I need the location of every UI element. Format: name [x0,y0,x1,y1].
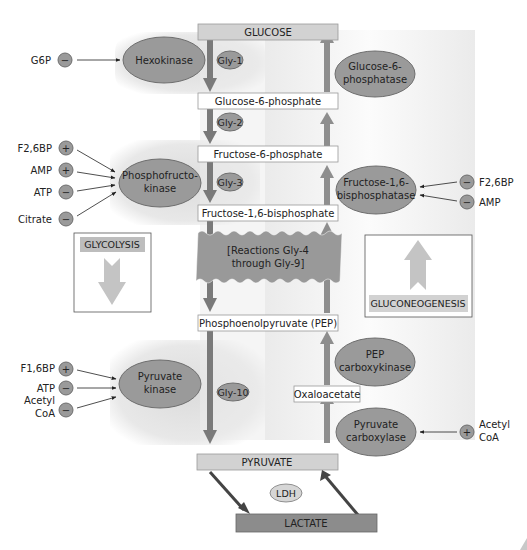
svg-text:Gly-3: Gly-3 [218,177,243,188]
step-gly2: Gly-2 [217,113,243,131]
regulator-pfk-amp: AMP + [31,163,116,178]
svg-text:CoA: CoA [479,432,499,443]
regulator-pk-f16bp: F1,6BP + [20,362,116,379]
svg-text:kinase: kinase [144,384,176,395]
svg-text:−: − [463,177,471,188]
svg-text:Fructose-1,6-bisphosphate: Fructose-1,6-bisphosphate [202,208,335,219]
svg-text:F2,6BP: F2,6BP [479,177,514,188]
svg-text:AMP: AMP [31,165,53,176]
metabolite-g6p: Glucose-6-phosphate [198,93,338,109]
svg-text:+: + [62,165,70,176]
svg-text:Pyruvate: Pyruvate [354,419,399,430]
enzyme-glucose-6-phosphatase: Glucose-6- phosphatase [335,51,415,97]
svg-text:Hexokinase: Hexokinase [135,55,193,66]
svg-text:−: − [62,187,70,198]
glycolysis-gluconeogenesis-diagram: GLUCOSE Glucose-6-phosphate Fructose-6-p… [0,0,527,550]
enzyme-hexokinase: Hexokinase [123,37,205,83]
svg-text:+: + [463,427,471,438]
metabolite-oxaloacetate: Oxaloacetate [294,386,361,402]
svg-text:CoA: CoA [35,408,55,419]
svg-text:kinase: kinase [144,183,176,194]
svg-text:−: − [62,214,70,225]
svg-text:Acetyl: Acetyl [479,419,510,430]
svg-text:+: + [62,364,70,375]
svg-text:−: − [61,55,69,66]
svg-text:F1,6BP: F1,6BP [20,363,55,374]
svg-text:F2,6BP: F2,6BP [17,143,52,154]
regulator-pfk-atp: ATP − [34,185,115,199]
svg-text:carboxykinase: carboxykinase [339,362,411,373]
step-gly1: Gly-1 [217,51,243,69]
enzyme-ldh: LDH [270,484,302,502]
regulator-pk-atp: ATP − [37,381,116,395]
legend-gluconeogenesis: GLUCONEOGENESIS [365,235,472,317]
step-gly3: Gly-3 [217,173,243,191]
svg-text:[Reactions Gly-4: [Reactions Gly-4 [227,245,309,256]
enzyme-pyruvate-kinase: Pyruvate kinase [119,360,201,408]
svg-text:Phosphoenolpyruvate (PEP): Phosphoenolpyruvate (PEP) [199,318,337,329]
enzyme-phosphofructokinase: Phosphofructo- kinase [119,159,201,207]
svg-text:Fructose-6-phosphate: Fructose-6-phosphate [214,149,323,160]
step-gly10: Gly-10 [217,383,249,401]
svg-text:Gly-2: Gly-2 [218,117,243,128]
svg-text:Gly-1: Gly-1 [218,55,243,66]
svg-text:GLUCOSE: GLUCOSE [244,27,292,38]
svg-text:phosphatase: phosphatase [343,74,407,85]
svg-text:−: − [62,383,70,394]
enzyme-fructose-1-6-bisphosphatase: Fructose-1,6- bisphosphatase [336,166,416,214]
reactions-gly4-9-box: [Reactions Gly-4 through Gly-9] [196,231,342,283]
svg-text:Acetyl: Acetyl [24,395,55,406]
regulator-pk-acetyl-coa: Acetyl CoA − [24,395,116,419]
svg-text:Gly-10: Gly-10 [218,387,249,398]
svg-text:+: + [62,143,70,154]
svg-text:LDH: LDH [276,488,296,499]
svg-text:PYRUVATE: PYRUVATE [242,457,293,468]
metabolite-lactate: LACTATE [236,514,377,532]
svg-text:carboxylase: carboxylase [346,432,406,443]
svg-text:−: − [62,405,70,416]
svg-text:Fructose-1,6-: Fructose-1,6- [343,177,409,188]
svg-text:AMP: AMP [479,197,501,208]
enzyme-pyruvate-carboxylase: Pyruvate carboxylase [336,408,416,456]
svg-text:ATP: ATP [34,187,52,198]
svg-text:GLYCOLYSIS: GLYCOLYSIS [84,239,139,250]
metabolite-pep: Phosphoenolpyruvate (PEP) [198,315,338,331]
svg-text:LACTATE: LACTATE [284,518,327,529]
metabolite-f6p: Fructose-6-phosphate [198,146,338,162]
metabolite-glucose: GLUCOSE [198,24,338,40]
metabolite-f16bp: Fructose-1,6-bisphosphate [198,205,338,221]
svg-text:−: − [463,197,471,208]
svg-text:Oxaloacetate: Oxaloacetate [294,389,361,400]
svg-text:GLUCONEOGENESIS: GLUCONEOGENESIS [370,298,465,309]
svg-text:Glucose-6-phosphate: Glucose-6-phosphate [215,96,321,107]
svg-text:Phosphofructo-: Phosphofructo- [122,170,198,181]
svg-text:Citrate: Citrate [18,214,52,225]
regulator-g6p: G6P − [31,53,120,67]
svg-text:PEP: PEP [366,349,384,360]
svg-text:bisphosphatase: bisphosphatase [337,190,416,201]
svg-text:Glucose-6-: Glucose-6- [348,61,402,72]
enzyme-pep-carboxykinase: PEP carboxykinase [335,338,415,386]
svg-text:through Gly-9]: through Gly-9] [232,258,305,269]
svg-text:G6P: G6P [31,55,51,66]
page-edge-fragment [520,538,527,550]
svg-text:Pyruvate: Pyruvate [138,371,183,382]
metabolite-pyruvate: PYRUVATE [197,454,338,470]
legend-glycolysis: GLYCOLYSIS [74,233,151,312]
svg-text:ATP: ATP [37,383,55,394]
